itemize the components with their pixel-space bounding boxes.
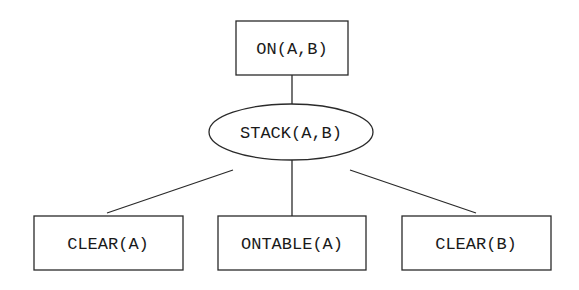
node-clear-a: CLEAR(A) [34, 216, 183, 270]
edge-stack-to-clear-a [107, 170, 233, 213]
goal-tree-diagram: ON(A,B) STACK(A,B) CLEAR(A) ONTABLE(A) C… [0, 0, 579, 290]
node-stack-a-b: STACK(A,B) [209, 104, 373, 160]
node-ontable-a: ONTABLE(A) [218, 216, 366, 270]
node-on-a-b-label: ON(A,B) [256, 40, 327, 59]
node-clear-a-label: CLEAR(A) [67, 235, 149, 254]
node-on-a-b: ON(A,B) [236, 21, 348, 75]
edge-stack-to-clear-b [350, 170, 476, 213]
node-clear-b: CLEAR(B) [402, 216, 551, 270]
node-ontable-a-label: ONTABLE(A) [241, 235, 343, 254]
node-stack-a-b-label: STACK(A,B) [240, 124, 342, 143]
node-clear-b-label: CLEAR(B) [435, 235, 517, 254]
